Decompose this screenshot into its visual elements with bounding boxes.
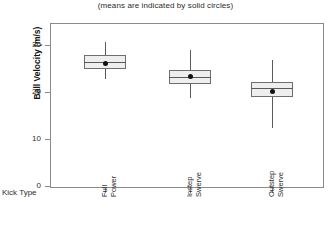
x-tick-label: Swerve — [277, 172, 286, 197]
mean-marker — [270, 89, 275, 94]
y-tick-mark — [45, 139, 50, 140]
y-axis-title: Ball Velocity (m/s) — [32, 3, 42, 123]
x-tick-label: Swerve — [195, 172, 204, 197]
plot-area — [50, 23, 324, 188]
chart-subtitle: (means are indicated by solid circles) — [0, 1, 331, 10]
boxplot-chart: (means are indicated by solid circles) B… — [0, 0, 331, 230]
y-tick-mark — [45, 92, 50, 93]
y-tick-label: 10 — [19, 134, 41, 143]
x-axis-title: Kick Type — [2, 188, 37, 197]
y-tick-mark — [45, 186, 50, 187]
x-tick-label: Power — [110, 176, 119, 197]
mean-marker — [103, 61, 108, 66]
y-tick-label: 30 — [19, 40, 41, 49]
y-tick-label: 20 — [19, 87, 41, 96]
y-tick-mark — [45, 45, 50, 46]
